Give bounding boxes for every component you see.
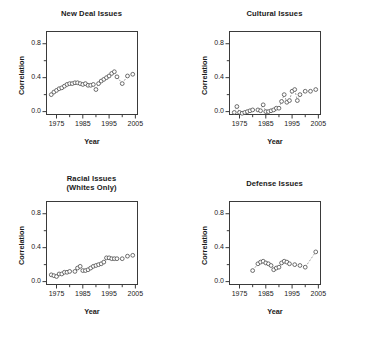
x-tick-label: 1985: [252, 120, 280, 127]
x-axis-label: Year: [46, 137, 138, 146]
data-point: [232, 111, 236, 115]
x-tick-label: 2005: [304, 290, 332, 297]
data-point: [131, 72, 135, 76]
x-tick-label: 2005: [304, 120, 332, 127]
y-tick-label: 0.8: [18, 209, 41, 216]
axis-ticks: [226, 44, 319, 119]
data-point: [269, 264, 273, 268]
y-tick-label: 0.8: [201, 39, 224, 46]
x-tick-label: 2005: [121, 290, 149, 297]
series-markers: [49, 70, 134, 97]
data-point: [295, 99, 299, 103]
x-tick-label: 1975: [226, 120, 254, 127]
data-point: [288, 99, 292, 103]
data-point: [68, 270, 72, 274]
data-point: [298, 93, 302, 97]
x-tick-label: 1995: [95, 290, 123, 297]
panel-cultural-issues: Cultural Issues 0.00.40.8197519851995200…: [183, 0, 366, 170]
panel-racial-issues: Racial Issues (Whites Only) 0.00.40.8197…: [0, 170, 183, 340]
data-point: [261, 103, 265, 107]
data-point: [303, 265, 307, 269]
data-point: [288, 262, 292, 266]
x-axis-label: Year: [229, 307, 321, 316]
data-point: [309, 89, 313, 93]
y-axis-label: Correlation: [200, 226, 209, 265]
x-tick-label: 1995: [278, 290, 306, 297]
data-point: [131, 253, 135, 257]
y-axis-label: Correlation: [17, 226, 26, 265]
x-axis-label: Year: [46, 307, 138, 316]
y-tick-label: 0.8: [18, 39, 41, 46]
data-point: [78, 264, 82, 268]
data-point: [73, 270, 77, 274]
data-point: [120, 257, 124, 261]
series-markers: [251, 250, 318, 272]
x-tick-label: 1995: [95, 120, 123, 127]
x-tick-label: 2005: [121, 120, 149, 127]
data-point: [282, 93, 286, 97]
y-axis-label: Correlation: [200, 56, 209, 95]
data-point: [120, 82, 124, 86]
data-point: [126, 254, 130, 258]
data-point: [235, 105, 239, 109]
x-tick-label: 1975: [43, 120, 71, 127]
axis-ticks: [226, 214, 319, 289]
data-point: [251, 269, 255, 273]
series-markers: [232, 88, 317, 116]
axis-ticks: [43, 44, 136, 119]
data-point: [94, 88, 98, 92]
data-point: [280, 100, 284, 104]
data-point: [277, 106, 281, 110]
y-tick-label: 0.0: [201, 277, 224, 284]
data-point: [102, 260, 106, 264]
data-point: [314, 88, 318, 92]
y-tick-label: 0.8: [201, 209, 224, 216]
y-axis-label: Correlation: [17, 56, 26, 95]
chart-grid: New Deal Issues 0.00.40.8197519851995200…: [0, 0, 366, 341]
panel-defense-issues: Defense Issues 0.00.40.81975198519952005…: [183, 170, 366, 340]
data-point: [298, 264, 302, 268]
y-tick-label: 0.0: [18, 107, 41, 114]
x-axis-label: Year: [229, 137, 321, 146]
data-point: [251, 108, 255, 112]
data-point: [126, 74, 130, 78]
data-point: [115, 75, 119, 79]
series-markers: [49, 253, 134, 278]
x-tick-label: 1985: [69, 290, 97, 297]
x-tick-label: 1985: [69, 120, 97, 127]
data-point: [277, 265, 281, 269]
y-tick-label: 0.0: [201, 107, 224, 114]
x-tick-label: 1975: [226, 290, 254, 297]
panel-new-deal-issues: New Deal Issues 0.00.40.8197519851995200…: [0, 0, 183, 170]
x-tick-label: 1995: [278, 120, 306, 127]
data-point: [293, 263, 297, 267]
data-point: [303, 89, 307, 93]
x-tick-label: 1985: [252, 290, 280, 297]
data-point: [115, 257, 119, 261]
y-tick-label: 0.0: [18, 277, 41, 284]
x-tick-label: 1975: [43, 290, 71, 297]
data-point: [293, 88, 297, 92]
data-point: [91, 83, 95, 87]
data-point: [259, 109, 263, 113]
data-point: [314, 250, 318, 254]
data-point: [112, 70, 116, 74]
